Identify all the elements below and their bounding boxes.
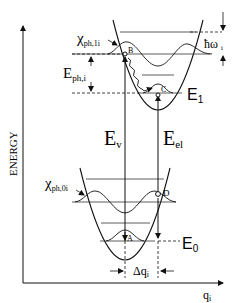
configuration-coordinate-diagram: B C D A ENERGY qi χph,1i χph,0i Eph,i ħω… <box>0 0 247 303</box>
point-c-marker <box>156 93 160 97</box>
chi-upper-label: χph,1i <box>76 30 101 48</box>
eel-transition-label: Eel <box>163 127 183 150</box>
chi-lower-label: χph,0i <box>44 175 69 193</box>
point-d-marker <box>156 192 161 197</box>
upper-wavefunction-0 <box>143 84 173 93</box>
hbar-omega-label: ħωi <box>204 37 223 52</box>
e0-level-label: E0 <box>182 235 199 254</box>
ev-transition-label: Ev <box>104 127 122 150</box>
energy-axis-label: ENERGY <box>7 131 19 176</box>
point-b-label: B <box>128 46 133 55</box>
e1-level-label: E1 <box>187 86 204 105</box>
point-a-label: A <box>127 234 133 243</box>
phonon-energy-label: Eph,i <box>63 65 86 83</box>
point-d-label: D <box>163 188 170 198</box>
delta-q-label: Δqi <box>133 264 150 279</box>
relaxation-wavy-arrow <box>128 58 152 91</box>
point-c-label: C <box>161 85 166 94</box>
labels: ENERGY qi χph,1i χph,0i Eph,i ħωi E1 E0 … <box>7 30 223 303</box>
q-axis-label: qi <box>203 288 212 303</box>
transitions <box>76 12 223 278</box>
lower-potential-well <box>72 168 180 260</box>
point-b-marker <box>123 52 127 56</box>
